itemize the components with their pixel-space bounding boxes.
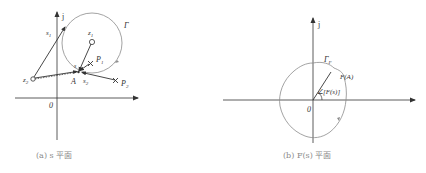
contour-gamma-label: Γ: [123, 21, 129, 30]
fa-label: F(A): [339, 73, 354, 81]
j-axis-label: j: [61, 12, 64, 21]
origin-label: 0: [49, 101, 53, 110]
a-point-label: A: [70, 77, 76, 86]
caption-b: (b) F(s) 平面: [283, 151, 331, 160]
s2-label: s2: [83, 77, 89, 86]
s1-label: s1: [46, 29, 51, 38]
origin-label: 0: [307, 105, 311, 114]
zero-z1-marker: [89, 39, 94, 44]
s-point-label: s: [74, 63, 77, 69]
pole-p1-marker: [88, 61, 93, 66]
j-axis-label: j: [317, 20, 320, 29]
zero-z2-marker: [31, 77, 35, 81]
vector-p2-to-s: [82, 73, 115, 81]
s-plane-panel: j 0 Γ z1 z2 s1 P1 P2: [15, 12, 138, 160]
angle-label: ∠[F(s)]: [317, 88, 340, 96]
pole-p2-marker: [113, 78, 118, 83]
p1-label: P1: [95, 55, 103, 65]
z1-label: z1: [87, 29, 93, 38]
f-plane-panel: j 0 ΓF F(A) ∠[F(s)] (b) F(s) 平面: [223, 18, 415, 160]
p2-label: P2: [120, 79, 129, 89]
contour-gamma-f-label: ΓF: [323, 55, 333, 65]
point-s-a: [77, 71, 79, 73]
caption-a: (a) s 平面: [36, 151, 72, 160]
z2-label: z2: [22, 76, 29, 85]
diagram-canvas: j 0 Γ z1 z2 s1 P1 P2: [0, 0, 426, 173]
